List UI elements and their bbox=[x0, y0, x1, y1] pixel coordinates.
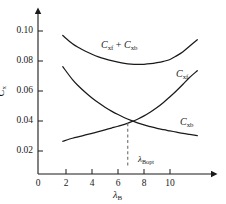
curve-label-cxb: Cxb bbox=[180, 117, 193, 127]
y-axis-title-base: C bbox=[0, 89, 6, 96]
y-axis-title-wrapper: Cx bbox=[1, 80, 17, 106]
chart-plot-area bbox=[0, 0, 226, 204]
x-axis-title-base: λ bbox=[113, 189, 118, 200]
curve-label-cxf: Cxf bbox=[176, 69, 188, 79]
x-tick-label-0: 0 bbox=[30, 179, 46, 189]
y-tick-label-4: 0.10 bbox=[2, 26, 33, 36]
chart-figure: 0.02 0.04 0.06 0.08 0.10 0 2 4 6 8 10 Cx… bbox=[0, 0, 226, 204]
x-axis-title-sub: B bbox=[118, 194, 123, 202]
x-tick-marks bbox=[66, 169, 170, 174]
x-tick-label-1: 2 bbox=[58, 179, 74, 189]
x-tick-label-4: 8 bbox=[136, 179, 152, 189]
y-tick-label-1: 0.04 bbox=[2, 116, 33, 126]
lambda-B-opt-sub: Bopt bbox=[142, 158, 154, 165]
y-axis-title: Cx bbox=[0, 86, 7, 97]
curve-label-sum-base2: C bbox=[124, 39, 131, 50]
x-tick-label-3: 6 bbox=[110, 179, 126, 189]
curve-label-cxf-sub: xf bbox=[183, 73, 189, 80]
y-tick-label-0: 0.02 bbox=[2, 146, 33, 156]
curve-cxb bbox=[63, 71, 198, 142]
x-tick-label-5: 10 bbox=[162, 179, 178, 189]
curve-label-cxf-base: C bbox=[176, 68, 183, 79]
y-tick-marks bbox=[38, 31, 43, 151]
curve-label-sum-base: C bbox=[101, 39, 108, 50]
y-tick-label-3: 0.08 bbox=[2, 56, 33, 66]
y-axis-title-sub: x bbox=[0, 86, 8, 90]
curve-label-cxb-base: C bbox=[180, 116, 187, 127]
x-axis-title: λB bbox=[113, 190, 122, 201]
curve-label-sum-sub2: xb bbox=[131, 44, 138, 51]
lambda-B-opt-label: λBopt bbox=[138, 155, 154, 164]
curve-label-sum: Cxf + Cxb bbox=[101, 40, 137, 50]
curve-label-cxb-sub: xb bbox=[187, 121, 194, 128]
x-tick-label-2: 4 bbox=[84, 179, 100, 189]
curve-label-sum-sub: xf bbox=[108, 44, 114, 51]
